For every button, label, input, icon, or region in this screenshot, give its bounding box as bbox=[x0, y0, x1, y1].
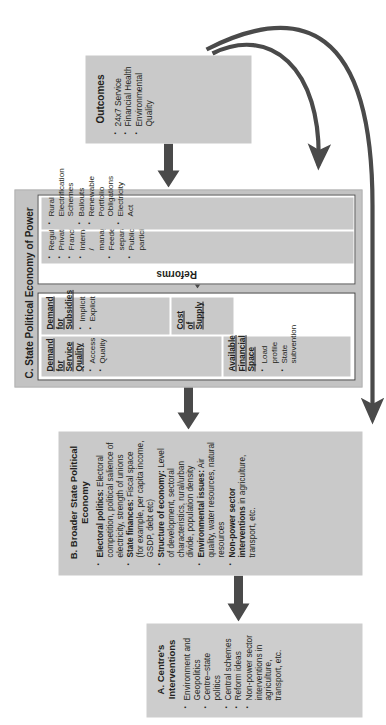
list-item: Feeder separation bbox=[106, 235, 125, 258]
quadrant-demand-for-service-quality: Demand for Service Quality AccessQuality bbox=[41, 336, 221, 376]
list-item-lead: Non-power sector interventions bbox=[227, 487, 246, 557]
quadrant-heading: Demand for Service Quality bbox=[45, 340, 84, 371]
list-item: Implicit bbox=[77, 301, 87, 329]
list-item: Franchisees bbox=[66, 235, 76, 258]
list-item: Reform ideas bbox=[233, 630, 243, 708]
list-item: Non-power sector interventions in agricu… bbox=[227, 439, 257, 565]
reforms-card: Reforms RegulatorsPrivatizationFranchise… bbox=[37, 194, 355, 284]
list-item-lead: Environmental issues: bbox=[196, 470, 205, 557]
reforms-bullets-right: Rural Electrification SchemesBailoutsRen… bbox=[46, 201, 135, 224]
quadrant-demand-for-subsidies: Demand for Subsidies ImplicitExplicit bbox=[41, 297, 169, 334]
diagram-canvas: A. Centre's Interventions Environment an… bbox=[0, 0, 386, 725]
outcomes-title: Outcomes bbox=[94, 63, 106, 134]
quadrant-bullets: ImplicitExplicit bbox=[77, 301, 97, 329]
list-item: Central schemes bbox=[223, 630, 233, 708]
box-b-title: B. Broader State Political Economy bbox=[68, 439, 90, 565]
reforms-column-left: RegulatorsPrivatizationFranchiseesIntern… bbox=[41, 231, 353, 263]
box-b-bullet-list: Electoral politics: Electoral competitio… bbox=[95, 439, 257, 565]
arrow-a-to-b bbox=[226, 575, 250, 621]
diagram-stage: A. Centre's Interventions Environment an… bbox=[0, 0, 386, 725]
list-item: 24x7 Service bbox=[112, 63, 122, 134]
list-item-lead: State finances: bbox=[125, 499, 134, 557]
box-b-broader-state-political-economy: B. Broader State Political Economy Elect… bbox=[58, 431, 362, 575]
list-item: Electoral politics: Electoral competitio… bbox=[95, 439, 125, 565]
demand-and-cost-card: Demand for Service Quality AccessQuality… bbox=[37, 292, 355, 380]
list-item: State subvention bbox=[279, 340, 298, 371]
arrow-b-to-c bbox=[176, 385, 200, 429]
list-item: Financial Health bbox=[122, 63, 132, 134]
quadrant-cost-of-supply: Cost of Supply bbox=[171, 297, 233, 334]
box-a-bullet-list: Environment and GeopoliticsCentre–state … bbox=[182, 630, 284, 708]
list-item: Non-power sector interventions in agricu… bbox=[244, 630, 284, 708]
arrow-c-to-outcomes bbox=[156, 143, 180, 187]
list-item: Environmental Quality bbox=[133, 63, 153, 134]
quadrant-heading: Demand for Subsidies bbox=[45, 301, 74, 329]
list-item: Quality bbox=[97, 340, 107, 371]
reforms-bullets-left: RegulatorsPrivatizationFranchiseesIntern… bbox=[46, 235, 146, 258]
quadrant-heading: Available Financial Space bbox=[227, 340, 256, 371]
list-item: Regulators bbox=[46, 235, 56, 258]
quadrant-heading: Cost of Supply bbox=[175, 301, 204, 329]
box-c-title: C. State Political Economy of Power bbox=[23, 196, 34, 378]
reforms-title: Reforms bbox=[156, 268, 197, 279]
list-item: Public participation bbox=[126, 235, 145, 258]
list-item: Rural Electrification Schemes bbox=[46, 201, 75, 224]
list-item: Load profile bbox=[259, 340, 278, 371]
list-item: Centre–state politics bbox=[202, 630, 222, 708]
quadrant-bullets: Load profileState subvention bbox=[259, 340, 298, 371]
list-item: Internal / managerial bbox=[77, 235, 106, 258]
box-c-state-political-economy-of-power: C. State Political Economy of Power Dema… bbox=[14, 189, 362, 387]
list-item: Access bbox=[87, 340, 97, 371]
list-item: Bailouts bbox=[76, 201, 86, 224]
list-item-lead: Structure of economy: bbox=[156, 470, 165, 557]
reforms-column-right: Rural Electrification SchemesBailoutsRen… bbox=[41, 197, 353, 229]
list-item-lead: Electoral politics: bbox=[95, 489, 104, 557]
quadrant-available-financial-space: Available Financial Space Load profileSt… bbox=[223, 336, 350, 376]
list-item: Environment and Geopolitics bbox=[182, 630, 202, 708]
list-item: State finances: Fiscal space (for exampl… bbox=[125, 439, 155, 565]
box-outcomes: Outcomes 24x7 ServiceFinancial HealthEnv… bbox=[85, 55, 251, 143]
list-item: Environmental issues: Air quality, water… bbox=[196, 439, 226, 565]
list-item: Electricity Act bbox=[115, 201, 134, 224]
list-item: Explicit bbox=[87, 301, 97, 329]
box-a-title: A. Centre's Interventions bbox=[155, 630, 177, 708]
list-item: Renewable Portfolio Obligations bbox=[86, 201, 115, 224]
list-item: Structure of economy: Level of developme… bbox=[156, 439, 195, 565]
quadrant-bullets: AccessQuality bbox=[87, 340, 107, 371]
list-item: Privatization bbox=[56, 235, 66, 258]
outcomes-bullet-list: 24x7 ServiceFinancial HealthEnvironmenta… bbox=[112, 63, 153, 134]
box-a-centres-interventions: A. Centre's Interventions Environment an… bbox=[146, 623, 362, 717]
